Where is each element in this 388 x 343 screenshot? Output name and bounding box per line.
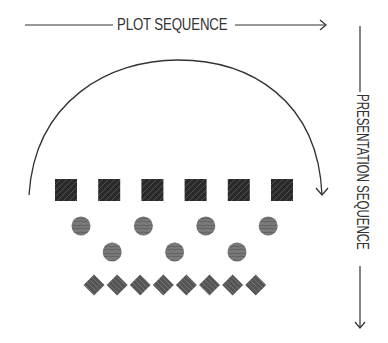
sequence-diagram: PLOT SEQUENCE PRESENTATION SEQUENCE: [0, 0, 388, 343]
square-item: [55, 179, 77, 201]
circle-row: [72, 217, 278, 262]
circle-item: [259, 217, 278, 236]
diamond-row: [84, 275, 267, 296]
diamond-item: [153, 275, 174, 296]
square-item: [185, 179, 207, 201]
loop-arc: [29, 60, 322, 195]
diamond-item: [176, 275, 197, 296]
diamond-item: [84, 275, 105, 296]
circle-item: [103, 243, 122, 262]
square-item: [228, 179, 250, 201]
square-item: [271, 179, 293, 201]
plot-sequence-label: PLOT SEQUENCE: [117, 14, 204, 36]
presentation-sequence-label: PRESENTATION SEQUENCE: [352, 94, 372, 250]
diagram-canvas: [0, 0, 388, 343]
square-item: [141, 179, 163, 201]
diamond-item: [199, 275, 220, 296]
square-row: [55, 179, 293, 201]
circle-item: [228, 243, 247, 262]
circle-item: [165, 243, 184, 262]
diamond-item: [130, 275, 151, 296]
circle-item: [72, 217, 91, 236]
diamond-item: [245, 275, 266, 296]
circle-item: [196, 217, 215, 236]
circle-item: [134, 217, 153, 236]
diamond-item: [222, 275, 243, 296]
square-item: [98, 179, 120, 201]
diamond-item: [107, 275, 128, 296]
